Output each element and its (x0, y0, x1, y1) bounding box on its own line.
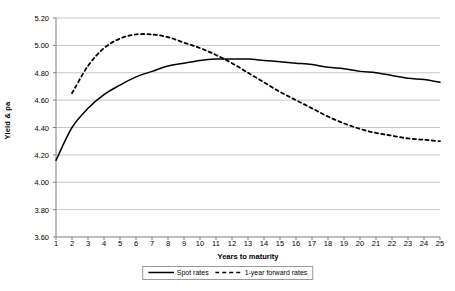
y-axis-title-text: Yield & pa (4, 101, 13, 139)
legend-swatch-dashed (216, 269, 242, 276)
yield-curve-chart: Yield & pa 3.603.804.004.204.404.604.805… (0, 0, 455, 291)
y-axis-tick-label: 4.20 (34, 150, 49, 159)
y-axis-tick-label: 4.40 (34, 123, 49, 132)
legend-swatch-solid (148, 269, 174, 276)
x-axis-tick-label: 18 (324, 239, 332, 248)
legend-entry: Spot rates (148, 268, 209, 277)
x-axis-tick-label: 20 (356, 239, 364, 248)
y-axis-tick-label: 5.20 (34, 14, 49, 23)
x-axis-tick-label: 12 (228, 239, 236, 248)
x-axis-tick-label: 11 (212, 239, 220, 248)
x-axis-tick-label: 23 (404, 239, 412, 248)
y-axis-tick-label: 4.00 (34, 178, 49, 187)
x-axis-tick-label: 5 (118, 239, 122, 248)
plot-svg (56, 18, 440, 237)
chart-legend: Spot rates1-year forward rates (142, 266, 314, 280)
legend-entry: 1-year forward rates (216, 268, 308, 277)
x-axis-tick-label: 25 (436, 239, 444, 248)
x-axis-tick-label: 1 (54, 239, 58, 248)
y-axis-tick-label: 4.80 (34, 68, 49, 77)
x-axis-tick-label: 8 (166, 239, 170, 248)
y-axis-tick-label: 5.00 (34, 41, 49, 50)
x-axis-tick-label: 10 (196, 239, 204, 248)
x-axis-tick-label: 14 (260, 239, 268, 248)
x-axis-tick-label: 21 (372, 239, 380, 248)
x-axis-tick-label: 7 (150, 239, 154, 248)
legend-label: Spot rates (177, 268, 209, 277)
x-axis-tick-label: 16 (292, 239, 300, 248)
x-axis-tick-label: 22 (388, 239, 396, 248)
x-axis-tick-label: 9 (182, 239, 186, 248)
y-axis-tick-label: 4.60 (34, 96, 49, 105)
y-axis-title: Yield & pa (0, 0, 16, 240)
plot-area (56, 18, 440, 237)
y-axis-tick-label: 3.60 (34, 233, 49, 242)
x-axis-tick-label: 2 (70, 239, 74, 248)
x-axis-tick-label: 15 (276, 239, 284, 248)
x-axis-tick-label: 19 (340, 239, 348, 248)
x-axis-tick-label: 24 (420, 239, 428, 248)
x-axis-tick-label: 3 (86, 239, 90, 248)
series-line-0 (56, 59, 440, 160)
x-axis-title: Years to maturity (56, 252, 440, 261)
legend-label: 1-year forward rates (245, 268, 308, 277)
y-axis-tick-label: 3.80 (34, 205, 49, 214)
x-axis-tick-labels: 1234567891011121314151617181920212223242… (56, 239, 440, 253)
series-line-1 (72, 34, 440, 141)
x-axis-tick-label: 13 (244, 239, 252, 248)
y-axis-tick-labels: 3.603.804.004.204.404.604.805.005.20 (16, 18, 52, 237)
x-axis-tick-label: 6 (134, 239, 138, 248)
x-axis-tick-label: 17 (308, 239, 316, 248)
x-axis-tick-label: 4 (102, 239, 106, 248)
